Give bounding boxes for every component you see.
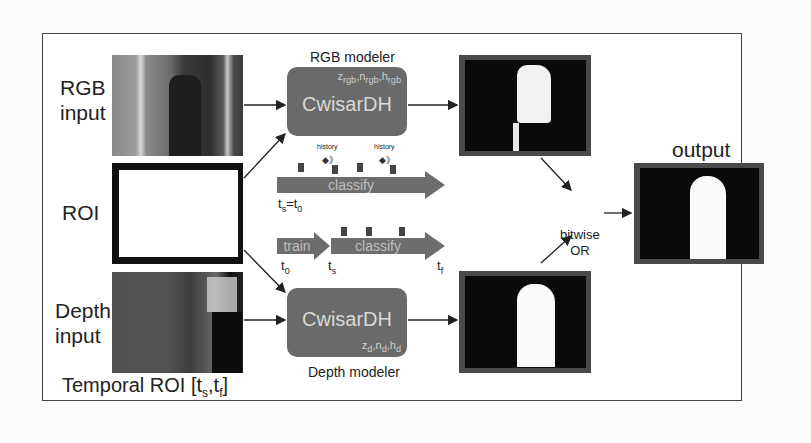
arrows-layer [0, 0, 811, 443]
arrow-roi-to-rgb-modeler [244, 134, 285, 178]
arrow-roi-to-depth-modeler [244, 250, 285, 292]
arrow-depth-mask-to-or [541, 236, 571, 263]
arrow-rgb-mask-to-or [541, 158, 571, 190]
